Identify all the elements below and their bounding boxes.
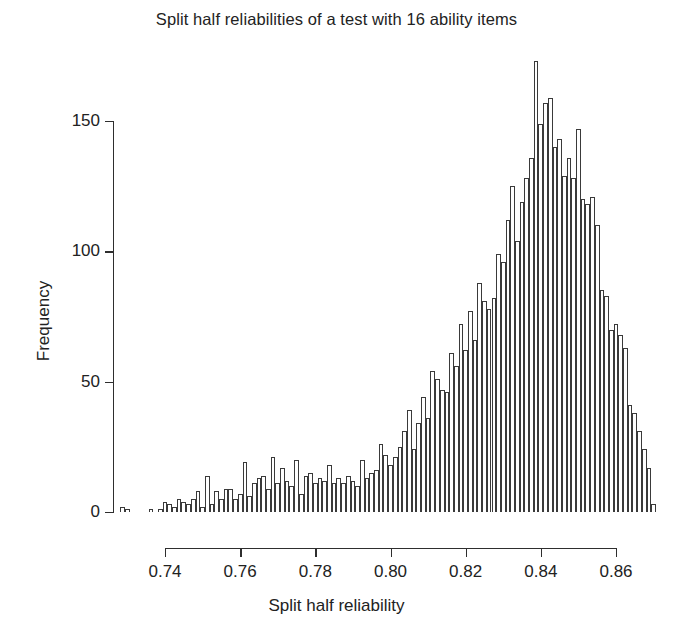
- y-axis-label: Frequency: [34, 201, 54, 441]
- x-axis-tick-label: 0.76: [205, 562, 275, 582]
- y-axis-tick: [105, 512, 114, 513]
- y-axis-tick-label: 0: [0, 502, 100, 522]
- x-axis-tick: [165, 548, 166, 557]
- plot-area: [122, 40, 650, 512]
- y-axis-tick-label: 150: [0, 111, 100, 131]
- x-axis-tick-label: 0.86: [581, 562, 651, 582]
- x-axis-tick: [391, 548, 392, 557]
- x-axis-tick-label: 0.74: [130, 562, 200, 582]
- histogram-figure: Split half reliabilities of a test with …: [0, 0, 673, 642]
- x-axis-tick: [541, 548, 542, 557]
- histogram-bar: [125, 509, 130, 512]
- y-axis-tick: [105, 251, 114, 252]
- y-axis-line: [113, 121, 114, 512]
- x-axis-tick: [315, 548, 316, 557]
- x-axis-tick-label: 0.82: [431, 562, 501, 582]
- histogram-bar: [149, 509, 154, 512]
- y-axis-tick: [105, 382, 114, 383]
- x-axis-tick-label: 0.78: [280, 562, 350, 582]
- x-axis-tick-label: 0.80: [356, 562, 426, 582]
- x-axis-label: Split half reliability: [0, 596, 673, 616]
- x-axis-tick: [240, 548, 241, 557]
- histogram-bars: [122, 40, 650, 512]
- x-axis-tick-label: 0.84: [506, 562, 576, 582]
- x-axis-tick: [466, 548, 467, 557]
- y-axis-tick: [105, 121, 114, 122]
- chart-title: Split half reliabilities of a test with …: [0, 10, 673, 29]
- histogram-bar: [651, 504, 656, 512]
- x-axis-tick: [616, 548, 617, 557]
